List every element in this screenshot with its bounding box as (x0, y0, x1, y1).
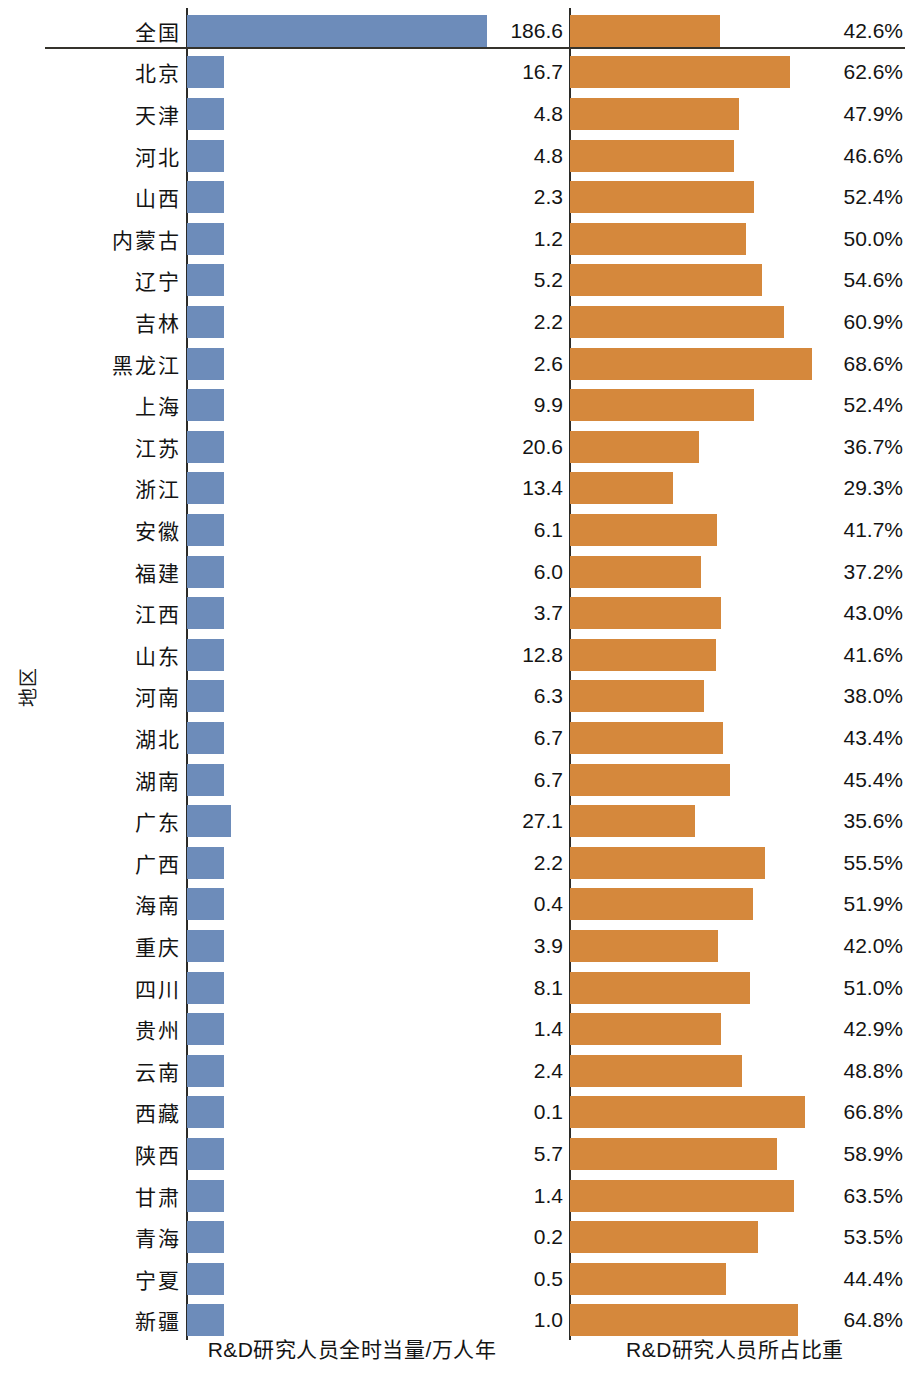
value-label-fulltime-equivalent: 12.8 (420, 643, 563, 667)
value-label-researcher-share: 35.6% (790, 809, 903, 833)
bar-fulltime-equivalent (187, 1138, 224, 1170)
right-bar-track (570, 884, 800, 926)
chart-row: 陕西5.758.9% (0, 1133, 913, 1175)
category-label: 新疆 (40, 1305, 181, 1335)
value-label-researcher-share: 63.5% (790, 1184, 903, 1208)
category-label: 宁夏 (40, 1264, 181, 1294)
bar-researcher-share (570, 431, 699, 463)
chart-row: 贵州1.442.9% (0, 1008, 913, 1050)
value-label-researcher-share: 58.9% (790, 1142, 903, 1166)
bar-fulltime-equivalent (187, 888, 224, 920)
right-bar-track (570, 592, 800, 634)
bar-researcher-share (570, 680, 704, 712)
category-label: 四川 (40, 973, 181, 1003)
chart-row: 湖南6.745.4% (0, 759, 913, 801)
right-bar-track (570, 842, 800, 884)
bar-researcher-share (570, 1304, 798, 1336)
value-label-fulltime-equivalent: 1.4 (420, 1017, 563, 1041)
bar-researcher-share (570, 764, 730, 796)
value-label-fulltime-equivalent: 6.7 (420, 768, 563, 792)
value-label-researcher-share: 55.5% (790, 851, 903, 875)
value-label-researcher-share: 41.7% (790, 518, 903, 542)
category-label: 西藏 (40, 1097, 181, 1127)
chart-row: 黑龙江2.668.6% (0, 343, 913, 385)
chart-row: 湖北6.743.4% (0, 717, 913, 759)
value-label-fulltime-equivalent: 27.1 (420, 809, 563, 833)
bar-fulltime-equivalent (187, 223, 224, 255)
right-bar-track (570, 551, 800, 593)
value-label-fulltime-equivalent: 2.6 (420, 352, 563, 376)
bar-researcher-share (570, 223, 746, 255)
bar-fulltime-equivalent (187, 556, 224, 588)
bar-fulltime-equivalent (187, 140, 224, 172)
value-label-fulltime-equivalent: 0.5 (420, 1267, 563, 1291)
bar-researcher-share (570, 98, 739, 130)
bar-researcher-share (570, 639, 716, 671)
category-label: 广西 (40, 848, 181, 878)
category-label: 安徽 (40, 515, 181, 545)
category-label: 黑龙江 (40, 349, 181, 379)
category-label: 辽宁 (40, 265, 181, 295)
right-bar-track (570, 634, 800, 676)
bar-fulltime-equivalent (187, 1263, 224, 1295)
value-label-fulltime-equivalent: 4.8 (420, 144, 563, 168)
value-label-fulltime-equivalent: 13.4 (420, 476, 563, 500)
bar-fulltime-equivalent (187, 1055, 224, 1087)
chart-row: 河北4.846.6% (0, 135, 913, 177)
bar-researcher-share (570, 389, 754, 421)
category-label: 河南 (40, 681, 181, 711)
chart-row: 广东27.135.6% (0, 800, 913, 842)
value-label-fulltime-equivalent: 4.8 (420, 102, 563, 126)
chart-row: 山东12.841.6% (0, 634, 913, 676)
right-bar-track (570, 1175, 800, 1217)
right-bar-track (570, 1258, 800, 1300)
bar-researcher-share (570, 805, 695, 837)
right-bar-track (570, 1133, 800, 1175)
bar-fulltime-equivalent (187, 98, 224, 130)
value-label-fulltime-equivalent: 8.1 (420, 976, 563, 1000)
bar-fulltime-equivalent (187, 972, 224, 1004)
bar-researcher-share (570, 1096, 805, 1128)
value-label-researcher-share: 51.9% (790, 892, 903, 916)
bar-fulltime-equivalent (187, 722, 224, 754)
category-label: 湖南 (40, 765, 181, 795)
chart-row: 河南6.338.0% (0, 676, 913, 718)
value-label-researcher-share: 64.8% (790, 1308, 903, 1332)
bar-fulltime-equivalent (187, 431, 224, 463)
chart-row: 吉林2.260.9% (0, 301, 913, 343)
right-bar-track (570, 93, 800, 135)
category-label: 海南 (40, 889, 181, 919)
right-bar-track (570, 426, 800, 468)
right-bar-track (570, 676, 800, 718)
bar-researcher-share (570, 722, 723, 754)
value-label-researcher-share: 42.0% (790, 934, 903, 958)
right-bar-track (570, 343, 800, 385)
right-bar-track (570, 1050, 800, 1092)
bar-fulltime-equivalent (187, 306, 224, 338)
bar-fulltime-equivalent (187, 805, 231, 837)
bar-researcher-share (570, 15, 720, 47)
category-label: 全国 (40, 16, 181, 46)
category-label: 江苏 (40, 432, 181, 462)
category-label: 广东 (40, 806, 181, 836)
bar-fulltime-equivalent (187, 472, 224, 504)
value-label-researcher-share: 68.6% (790, 352, 903, 376)
right-bar-track (570, 1008, 800, 1050)
category-label: 山西 (40, 182, 181, 212)
value-label-researcher-share: 50.0% (790, 227, 903, 251)
chart-row: 云南2.448.8% (0, 1050, 913, 1092)
category-label: 吉林 (40, 307, 181, 337)
bar-researcher-share (570, 1221, 758, 1253)
bar-fulltime-equivalent (187, 597, 224, 629)
value-label-researcher-share: 52.4% (790, 185, 903, 209)
category-label: 山东 (40, 640, 181, 670)
bar-researcher-share (570, 556, 701, 588)
right-bar-track (570, 468, 800, 510)
value-label-researcher-share: 54.6% (790, 268, 903, 292)
value-label-researcher-share: 42.9% (790, 1017, 903, 1041)
value-label-researcher-share: 45.4% (790, 768, 903, 792)
chart-row: 江苏20.636.7% (0, 426, 913, 468)
value-label-fulltime-equivalent: 2.2 (420, 310, 563, 334)
bar-fulltime-equivalent (187, 1180, 224, 1212)
value-label-fulltime-equivalent: 2.3 (420, 185, 563, 209)
